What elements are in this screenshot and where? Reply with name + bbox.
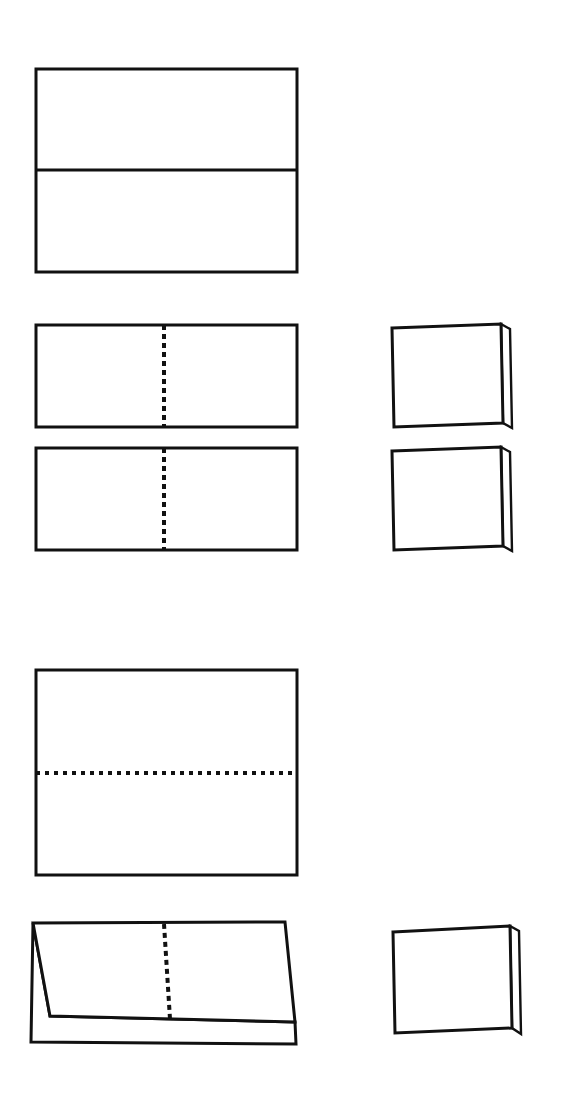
diagram-canvas: [0, 0, 569, 1103]
figure-sheet-with-center-crease: [36, 69, 297, 272]
figure-final-folded-booklet: [393, 926, 521, 1034]
figure-half-sheet-upper-with-fold-line: [36, 325, 297, 427]
folded-front-panel: [392, 447, 503, 550]
paper-outline: [36, 325, 297, 427]
figure-folded-booklet-lower: [392, 447, 512, 551]
figure-half-sheet-lower-with-fold-line: [36, 448, 297, 550]
paper-outline: [36, 448, 297, 550]
folded-front-panel: [393, 926, 512, 1033]
figure-large-sheet-with-horizontal-fold: [36, 670, 297, 875]
folded-front-panel: [392, 324, 503, 427]
figure-angled-folded-sheet-with-fold-line: [31, 922, 296, 1044]
figure-folded-booklet-upper: [392, 324, 512, 428]
paper-folding-diagram: [0, 0, 569, 1103]
